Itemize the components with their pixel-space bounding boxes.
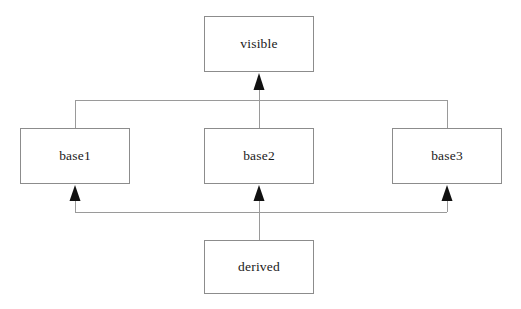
arrowhead-into-visible bbox=[254, 73, 265, 90]
node-derived-label: derived bbox=[238, 260, 280, 274]
node-visible[interactable]: visible bbox=[204, 16, 314, 72]
node-base2-label: base2 bbox=[243, 149, 275, 163]
diagram-canvas: visible base1 base2 base3 derived bbox=[0, 0, 521, 309]
node-visible-label: visible bbox=[240, 37, 277, 51]
arrowhead-into-base3 bbox=[442, 185, 453, 201]
edge-group-bases-to-visible bbox=[75, 73, 447, 128]
edge-group-derived-to-bases bbox=[70, 185, 453, 240]
node-derived[interactable]: derived bbox=[204, 240, 314, 294]
arrowhead-into-base1 bbox=[70, 185, 81, 201]
arrowhead-into-base2 bbox=[254, 185, 265, 201]
node-base1-label: base1 bbox=[59, 149, 91, 163]
node-base3[interactable]: base3 bbox=[392, 128, 502, 184]
node-base2[interactable]: base2 bbox=[204, 128, 314, 184]
node-base3-label: base3 bbox=[431, 149, 463, 163]
node-base1[interactable]: base1 bbox=[20, 128, 130, 184]
